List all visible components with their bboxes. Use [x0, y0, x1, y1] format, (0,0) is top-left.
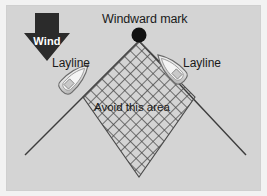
layline-left-label: Layline [52, 57, 90, 69]
windward-mark-label: Windward mark [102, 13, 188, 26]
diagram-canvas [6, 5, 261, 191]
avoid-area-label: Avoid this area [94, 102, 170, 114]
diagram-panel: Wind Windward mark Layline Layline Avoid… [6, 5, 261, 191]
diagram-root: Wind Windward mark Layline Layline Avoid… [0, 0, 267, 196]
layline-right-label: Layline [183, 57, 221, 69]
windward-mark-dot [132, 28, 147, 43]
wind-label: Wind [22, 36, 72, 47]
